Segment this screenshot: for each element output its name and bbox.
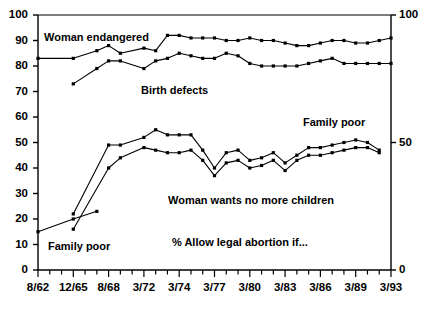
series-marker — [95, 49, 98, 52]
series-marker — [213, 166, 216, 169]
series-marker — [260, 156, 263, 159]
series-marker — [142, 146, 145, 149]
right-axis-tick-label: 100 — [399, 8, 429, 20]
series-marker — [166, 34, 169, 37]
series-marker — [189, 149, 192, 152]
series-marker — [166, 151, 169, 154]
series-marker — [307, 62, 310, 65]
series-marker — [201, 36, 204, 39]
series-marker — [72, 212, 75, 215]
series-marker — [178, 133, 181, 136]
series-marker — [225, 52, 228, 55]
left-axis-tick-label: 60 — [0, 110, 28, 122]
left-axis-tick-label: 50 — [0, 136, 28, 148]
left-axis-tick-label: 10 — [0, 238, 28, 250]
series-marker — [354, 41, 357, 44]
series-marker — [284, 161, 287, 164]
series-marker — [189, 54, 192, 57]
series-marker — [295, 154, 298, 157]
series-marker — [378, 39, 381, 42]
series-marker — [95, 67, 98, 70]
series-marker — [201, 149, 204, 152]
series-annotation-label: Family poor — [303, 116, 365, 128]
series-marker — [342, 62, 345, 65]
series-marker — [307, 44, 310, 47]
series-annotation-label: Woman endangered — [44, 31, 149, 43]
series-marker — [225, 39, 228, 42]
series-marker — [284, 41, 287, 44]
series-marker — [378, 151, 381, 154]
series-marker — [331, 39, 334, 42]
series-marker — [366, 141, 369, 144]
line-chart: 10090807060504030201001005008/6212/658/6… — [0, 0, 437, 313]
series-marker — [260, 64, 263, 67]
series-marker — [295, 44, 298, 47]
series-marker — [36, 230, 39, 233]
series-marker — [189, 133, 192, 136]
series-marker — [201, 159, 204, 162]
series-marker — [119, 52, 122, 55]
series-marker — [119, 59, 122, 62]
series-line-3 — [73, 148, 379, 230]
series-marker — [36, 57, 39, 60]
series-marker — [142, 47, 145, 50]
series-marker — [72, 228, 75, 231]
series-marker — [213, 174, 216, 177]
series-marker — [178, 34, 181, 37]
series-marker — [307, 146, 310, 149]
right-axis-tick-label: 50 — [399, 136, 429, 148]
right-axis-tick-label: 0 — [399, 263, 429, 275]
series-line-1 — [73, 53, 391, 84]
series-marker — [107, 44, 110, 47]
series-marker — [236, 54, 239, 57]
series-marker — [107, 143, 110, 146]
series-marker — [284, 64, 287, 67]
series-marker — [248, 166, 251, 169]
series-line-4 — [38, 211, 97, 231]
series-marker — [260, 164, 263, 167]
series-marker — [354, 62, 357, 65]
series-marker — [107, 59, 110, 62]
left-axis-tick-label: 40 — [0, 161, 28, 173]
left-axis-tick-label: 20 — [0, 212, 28, 224]
series-marker — [225, 151, 228, 154]
series-marker — [72, 82, 75, 85]
series-marker — [319, 154, 322, 157]
left-axis-tick-label: 90 — [0, 34, 28, 46]
series-marker — [248, 62, 251, 65]
series-marker — [178, 52, 181, 55]
series-marker — [154, 149, 157, 152]
series-marker — [295, 64, 298, 67]
chart-frame — [38, 15, 391, 270]
series-marker — [354, 146, 357, 149]
series-marker — [154, 59, 157, 62]
series-marker — [154, 49, 157, 52]
series-annotation-label: Family poor — [48, 240, 110, 252]
series-marker — [72, 217, 75, 220]
left-axis-tick-label: 80 — [0, 59, 28, 71]
series-marker — [319, 59, 322, 62]
series-marker — [331, 151, 334, 154]
series-marker — [248, 159, 251, 162]
series-marker — [201, 57, 204, 60]
series-marker — [236, 159, 239, 162]
series-annotation-label: Woman wants no more children — [168, 194, 334, 206]
series-marker — [236, 39, 239, 42]
series-marker — [248, 36, 251, 39]
series-marker — [378, 62, 381, 65]
series-marker — [272, 64, 275, 67]
series-marker — [236, 149, 239, 152]
series-marker — [366, 62, 369, 65]
series-marker — [154, 128, 157, 131]
series-marker — [142, 136, 145, 139]
series-marker — [354, 138, 357, 141]
series-marker — [166, 133, 169, 136]
series-marker — [72, 57, 75, 60]
series-marker — [331, 57, 334, 60]
series-marker — [342, 141, 345, 144]
series-annotation-label: Birth defects — [141, 84, 208, 96]
series-marker — [119, 156, 122, 159]
series-marker — [272, 151, 275, 154]
chart-plot-area — [0, 0, 437, 313]
series-marker — [307, 154, 310, 157]
